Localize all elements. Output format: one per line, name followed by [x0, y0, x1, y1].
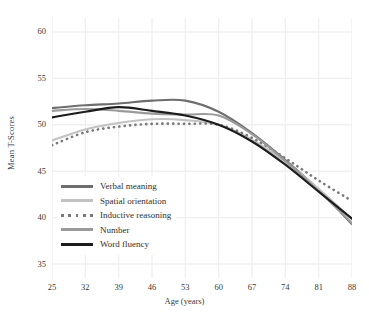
- x-tick-label: 74: [274, 283, 296, 292]
- legend-swatch-icon: [61, 195, 93, 207]
- x-axis-title: Age (years): [0, 296, 369, 306]
- legend-item[interactable]: Word fluency: [61, 237, 171, 252]
- x-tick-label: 39: [108, 283, 130, 292]
- y-tick-label: 45: [20, 167, 46, 176]
- legend-swatch-icon: [61, 209, 93, 221]
- x-tick-label: 60: [208, 283, 230, 292]
- legend-item-label: Inductive reasoning: [100, 210, 171, 220]
- x-tick-label: 32: [74, 283, 96, 292]
- y-tick-label: 35: [20, 260, 46, 269]
- y-tick-label: 50: [20, 120, 46, 129]
- legend-item[interactable]: Spatial orientation: [61, 194, 171, 209]
- y-axis-title: Mean T-Scores: [6, 98, 16, 188]
- chart-figure: Mean T-Scores Age (years) 354045505560 2…: [0, 0, 369, 315]
- chart-legend: Verbal meaningSpatial orientationInducti…: [57, 176, 176, 255]
- x-tick-label: 53: [174, 283, 196, 292]
- legend-item-label: Verbal meaning: [100, 181, 157, 191]
- legend-swatch-icon: [61, 180, 93, 192]
- legend-item[interactable]: Inductive reasoning: [61, 208, 171, 223]
- x-tick-label: 88: [341, 283, 363, 292]
- x-tick-label: 67: [241, 283, 263, 292]
- legend-item-label: Number: [100, 225, 130, 235]
- legend-item[interactable]: Number: [61, 223, 171, 238]
- y-tick-label: 55: [20, 74, 46, 83]
- x-tick-label: 81: [308, 283, 330, 292]
- y-tick-label: 60: [20, 27, 46, 36]
- legend-swatch-icon: [61, 224, 93, 236]
- legend-swatch-icon: [61, 238, 93, 250]
- legend-item-label: Spatial orientation: [100, 196, 166, 206]
- legend-item-label: Word fluency: [100, 239, 149, 249]
- legend-item[interactable]: Verbal meaning: [61, 179, 171, 194]
- x-tick-label: 46: [141, 283, 163, 292]
- y-tick-label: 40: [20, 213, 46, 222]
- x-tick-label: 25: [41, 283, 63, 292]
